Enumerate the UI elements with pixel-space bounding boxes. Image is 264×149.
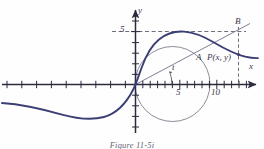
angle-label-t: t bbox=[172, 63, 175, 72]
figure-caption: Figure 11-5i bbox=[0, 140, 264, 149]
axes bbox=[2, 10, 256, 133]
figure-plot bbox=[0, 0, 264, 149]
point-label-p: P(x, y) bbox=[207, 53, 231, 62]
point-label-b: B bbox=[235, 17, 241, 26]
x-tick-label-5: 5 bbox=[176, 88, 181, 97]
x-axis-label: x bbox=[249, 62, 253, 71]
figure-container: x y 5 5 10 t A P(x, y) B Figure 11-5i bbox=[0, 0, 264, 149]
trochoid-curve bbox=[2, 32, 258, 119]
angle-arc-t bbox=[170, 72, 173, 85]
point-p-marker bbox=[237, 53, 240, 56]
x-tick-label-10: 10 bbox=[211, 88, 220, 97]
y-tick-label-5: 5 bbox=[120, 25, 125, 34]
y-axis-label: y bbox=[138, 6, 142, 15]
point-label-a: A bbox=[196, 53, 202, 62]
